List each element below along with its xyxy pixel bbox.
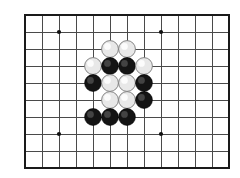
go-diagram-root bbox=[0, 0, 240, 178]
stone-body bbox=[102, 109, 119, 126]
stone-black-b8[interactable] bbox=[119, 109, 136, 126]
stone-body bbox=[119, 109, 136, 126]
go-board[interactable] bbox=[0, 0, 240, 178]
stone-body bbox=[85, 109, 102, 126]
stone-body bbox=[102, 58, 119, 75]
stone-body bbox=[85, 75, 102, 92]
stone-black-b4[interactable] bbox=[136, 75, 153, 92]
stone-body bbox=[119, 75, 136, 92]
stone-body bbox=[102, 92, 119, 109]
stone-body bbox=[136, 92, 153, 109]
stone-highlight bbox=[121, 94, 128, 101]
stone-highlight bbox=[87, 60, 94, 67]
stone-body bbox=[119, 58, 136, 75]
stone-black-b7[interactable] bbox=[102, 109, 119, 126]
hoshi-bottom-right bbox=[159, 132, 163, 136]
stone-body bbox=[136, 75, 153, 92]
stone-highlight bbox=[121, 43, 128, 50]
stone-white-w7[interactable] bbox=[102, 92, 119, 109]
stone-highlight bbox=[121, 60, 128, 67]
stone-body bbox=[136, 58, 153, 75]
stone-white-w1[interactable] bbox=[102, 41, 119, 58]
stone-highlight bbox=[138, 77, 145, 84]
stone-white-w2[interactable] bbox=[119, 41, 136, 58]
stone-white-w8[interactable] bbox=[119, 92, 136, 109]
hoshi-top-right bbox=[159, 30, 163, 34]
stone-highlight bbox=[121, 111, 128, 118]
stone-highlight bbox=[104, 60, 111, 67]
stone-white-w4[interactable] bbox=[136, 58, 153, 75]
stone-body bbox=[85, 58, 102, 75]
stone-highlight bbox=[104, 77, 111, 84]
stone-highlight bbox=[104, 94, 111, 101]
stone-black-b1[interactable] bbox=[102, 58, 119, 75]
stone-black-b6[interactable] bbox=[85, 109, 102, 126]
stone-black-b2[interactable] bbox=[119, 58, 136, 75]
stone-highlight bbox=[104, 43, 111, 50]
stone-body bbox=[119, 92, 136, 109]
stone-body bbox=[102, 75, 119, 92]
stone-white-w5[interactable] bbox=[102, 75, 119, 92]
stone-white-w6[interactable] bbox=[119, 75, 136, 92]
go-board-canvas[interactable] bbox=[0, 0, 240, 178]
stone-highlight bbox=[87, 77, 94, 84]
stone-black-b3[interactable] bbox=[85, 75, 102, 92]
stone-body bbox=[119, 41, 136, 58]
stone-highlight bbox=[87, 111, 94, 118]
stone-highlight bbox=[138, 60, 145, 67]
stone-highlight bbox=[104, 111, 111, 118]
stone-body bbox=[102, 41, 119, 58]
stone-highlight bbox=[121, 77, 128, 84]
stone-black-b5[interactable] bbox=[136, 92, 153, 109]
hoshi-top-left bbox=[57, 30, 61, 34]
hoshi-bottom-left bbox=[57, 132, 61, 136]
stone-white-w3[interactable] bbox=[85, 58, 102, 75]
stone-highlight bbox=[138, 94, 145, 101]
